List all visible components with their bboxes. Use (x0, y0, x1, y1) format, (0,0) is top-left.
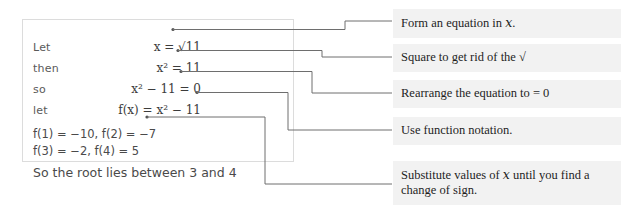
work-row-expression: x² = 11 (156, 58, 201, 79)
work-evaluation-row: f(3) = −2, f(4) = 5 (23, 141, 293, 162)
solution-annotation-diagram: Let x = √11 then x² = 11 so x² − 11 = 0 … (0, 0, 626, 218)
annotation-callout: Use function notation. (393, 117, 621, 145)
annotation-callout: Rearrange the equation to = 0 (393, 80, 621, 108)
annotation-callout: Square to get rid of the √ (393, 44, 621, 72)
work-row: then x² = 11 (23, 58, 293, 79)
annotation-text: Form an equation in (401, 16, 505, 30)
work-row-expression: f(x) = x² − 11 (118, 100, 201, 121)
work-evaluation-text: f(3) = −2, f(4) = 5 (33, 141, 139, 162)
work-row-keyword: Let (33, 37, 51, 58)
work-row-keyword: so (33, 79, 46, 100)
annotation-text: Rearrange the equation to = 0 (401, 86, 549, 100)
work-conclusion-row: So the root lies between 3 and 4 (23, 162, 293, 183)
annotation-text: Substitute values of (401, 168, 503, 182)
work-conclusion-text: So the root lies between 3 and 4 (33, 162, 237, 183)
annotation-text: Square to get rid of the (401, 50, 519, 64)
annotation-italic-var: x (503, 167, 510, 182)
work-row-expression: x = √11 (154, 37, 201, 58)
annotation-tail: . (512, 16, 515, 30)
annotation-callout: Form an equation in x. (393, 9, 621, 38)
work-row-keyword: let (33, 100, 48, 121)
work-row-keyword: then (33, 58, 59, 79)
work-row: let f(x) = x² − 11 (23, 100, 293, 121)
annotation-tail: √ (519, 50, 526, 64)
worked-solution-box: Let x = √11 then x² = 11 so x² − 11 = 0 … (22, 19, 294, 162)
annotation-callout: Substitute values of x until you find a … (393, 161, 621, 205)
work-row-expression: x² − 11 = 0 (131, 79, 201, 100)
work-row: so x² − 11 = 0 (23, 79, 293, 100)
work-row: Let x = √11 (23, 37, 293, 58)
annotation-text: Use function notation. (401, 123, 512, 137)
